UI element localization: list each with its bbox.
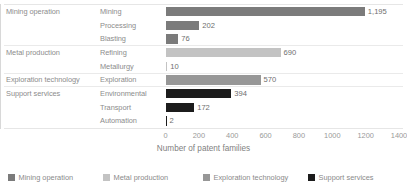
bar-blasting <box>166 34 179 43</box>
bar-value-label-refining: 690 <box>284 46 297 60</box>
legend-label: Mining operation <box>19 173 74 182</box>
bar-refining <box>166 48 281 57</box>
x-tick-400: 400 <box>226 131 238 140</box>
bar-value-label-mining: 1,195 <box>368 5 387 19</box>
legend-swatch-icon <box>308 174 315 181</box>
legend-swatch-icon <box>8 174 15 181</box>
bar-value-label-environmental: 394 <box>234 87 247 101</box>
legend-label: Exploration technology <box>214 173 289 182</box>
x-tick-800: 800 <box>293 131 305 140</box>
x-tick-1400: 1400 <box>391 131 407 140</box>
bar-row: 1,195 <box>0 5 407 19</box>
legend-item-support-services[interactable]: Support services <box>308 169 374 181</box>
bar-value-label-automation: 2 <box>169 114 173 128</box>
bar-value-label-processing: 202 <box>202 19 215 33</box>
bar-mining <box>166 7 365 16</box>
x-tick-200: 200 <box>193 131 205 140</box>
bar-chart: Mining operationMetal productionExplorat… <box>0 0 407 191</box>
bar-automation <box>166 116 167 125</box>
bar-row: 394 <box>0 87 407 101</box>
bar-row: 690 <box>0 46 407 60</box>
bar-transport <box>166 103 195 112</box>
bar-row: 202 <box>0 19 407 33</box>
x-tick-600: 600 <box>259 131 271 140</box>
bar-row: 172 <box>0 101 407 115</box>
bar-value-label-blasting: 76 <box>181 32 189 46</box>
bar-metallurgy <box>166 62 168 71</box>
bar-processing <box>166 21 200 30</box>
x-tick-0: 0 <box>163 131 167 140</box>
legend-item-metal-production[interactable]: Metal production <box>103 169 168 181</box>
bar-value-label-exploration: 570 <box>264 73 277 87</box>
x-tick-1200: 1200 <box>357 131 373 140</box>
legend-item-mining-operation[interactable]: Mining operation <box>8 169 73 181</box>
bar-row: 570 <box>0 73 407 87</box>
x-tick-1000: 1000 <box>324 131 340 140</box>
legend-swatch-icon <box>103 174 110 181</box>
bar-row: 10 <box>0 60 407 74</box>
chart-legend: Mining operationMetal productionExplorat… <box>0 169 407 183</box>
legend-item-exploration-technology[interactable]: Exploration technology <box>203 169 288 181</box>
bar-row: 76 <box>0 32 407 46</box>
bar-value-label-transport: 172 <box>197 101 210 115</box>
bar-exploration <box>166 75 261 84</box>
legend-label: Support services <box>319 173 374 182</box>
bar-environmental <box>166 89 232 98</box>
bar-value-label-metallurgy: 10 <box>170 60 178 74</box>
legend-label: Metal production <box>114 173 169 182</box>
x-axis-title: Number of patent families <box>0 144 407 153</box>
bar-row: 2 <box>0 114 407 128</box>
legend-swatch-icon <box>203 174 210 181</box>
